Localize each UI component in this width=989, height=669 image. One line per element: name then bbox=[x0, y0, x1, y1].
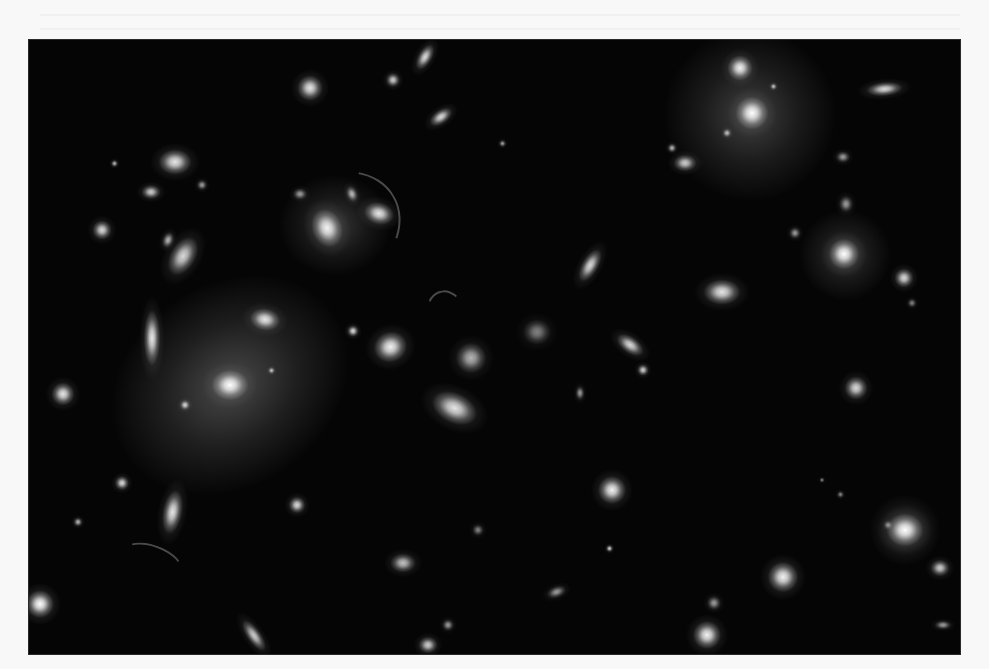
galaxy bbox=[139, 294, 165, 382]
galaxy bbox=[818, 476, 827, 485]
galaxy bbox=[832, 148, 854, 166]
galaxy bbox=[720, 126, 733, 139]
galaxy bbox=[665, 141, 678, 154]
galaxy bbox=[703, 592, 725, 614]
galaxy bbox=[835, 489, 846, 500]
galaxy bbox=[835, 191, 857, 217]
galaxy bbox=[447, 334, 495, 382]
galaxy bbox=[284, 492, 310, 518]
galaxy bbox=[339, 179, 365, 210]
galaxy bbox=[876, 504, 933, 557]
galaxy bbox=[413, 632, 444, 654]
lensing-arc bbox=[116, 535, 188, 589]
galaxy bbox=[229, 606, 280, 654]
galaxy bbox=[604, 543, 615, 554]
galaxy bbox=[786, 224, 804, 242]
galaxy bbox=[266, 365, 277, 376]
galaxy bbox=[29, 582, 62, 626]
galaxy bbox=[930, 618, 956, 631]
galaxy bbox=[820, 230, 868, 278]
galaxy bbox=[382, 69, 404, 91]
galaxy bbox=[149, 142, 202, 182]
galaxy bbox=[497, 138, 508, 149]
galaxy bbox=[404, 40, 445, 82]
galaxy-halo bbox=[665, 40, 835, 200]
lensing-arc bbox=[420, 287, 474, 358]
galaxy bbox=[151, 475, 194, 550]
galaxy bbox=[693, 272, 750, 312]
galaxy bbox=[177, 397, 192, 412]
galaxy bbox=[410, 370, 498, 445]
galaxy bbox=[838, 370, 873, 405]
galaxy bbox=[469, 521, 487, 539]
galaxy bbox=[71, 515, 84, 528]
galaxy bbox=[564, 235, 615, 298]
galaxy bbox=[194, 177, 209, 192]
galaxy bbox=[109, 158, 120, 169]
lensing-arc bbox=[595, 40, 730, 117]
galaxy bbox=[759, 553, 807, 601]
galaxy bbox=[87, 215, 118, 246]
galaxy-cluster-photo bbox=[29, 40, 960, 654]
galaxy bbox=[720, 48, 760, 88]
galaxy bbox=[685, 613, 729, 654]
galaxy bbox=[590, 468, 634, 512]
galaxy bbox=[889, 263, 920, 294]
galaxy-halo bbox=[70, 231, 390, 538]
galaxy bbox=[539, 578, 574, 605]
bleed-through-text bbox=[40, 4, 960, 34]
galaxy bbox=[290, 68, 330, 108]
galaxy bbox=[925, 555, 956, 581]
galaxy bbox=[603, 320, 658, 369]
galaxy bbox=[45, 376, 80, 411]
galaxy bbox=[201, 361, 258, 409]
galaxy bbox=[294, 191, 361, 265]
galaxy bbox=[439, 616, 457, 634]
lensing-arc bbox=[241, 147, 423, 318]
galaxy-halo bbox=[870, 495, 940, 565]
galaxy-halo bbox=[800, 210, 890, 300]
galaxy bbox=[155, 225, 181, 256]
galaxy bbox=[905, 296, 918, 309]
galaxy bbox=[418, 97, 463, 138]
galaxy bbox=[344, 322, 362, 340]
galaxy bbox=[136, 181, 167, 203]
galaxy bbox=[111, 472, 133, 494]
galaxy bbox=[351, 191, 407, 238]
galaxy bbox=[515, 312, 559, 352]
galaxy bbox=[856, 76, 915, 103]
galaxy bbox=[726, 87, 779, 140]
galaxy bbox=[881, 518, 894, 531]
galaxy-halo bbox=[280, 175, 390, 275]
galaxy bbox=[289, 185, 311, 203]
galaxy bbox=[383, 548, 423, 579]
galaxy bbox=[238, 298, 292, 341]
galaxy bbox=[667, 150, 702, 176]
galaxy bbox=[573, 382, 586, 404]
galaxy bbox=[149, 218, 216, 295]
page bbox=[0, 0, 989, 669]
galaxy bbox=[768, 81, 779, 92]
galaxy bbox=[634, 361, 652, 379]
galaxy bbox=[357, 315, 423, 379]
